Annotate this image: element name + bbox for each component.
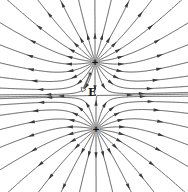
arrowhead-icon — [157, 120, 164, 123]
arrowhead-icon — [94, 99, 97, 105]
plus-sign-icon: + — [92, 124, 100, 134]
arrowhead-icon — [153, 79, 160, 82]
arrowhead-icon — [28, 133, 35, 137]
arrowhead-icon — [147, 87, 153, 90]
arrowhead-icon — [68, 119, 75, 122]
arrowhead-icon — [66, 56, 73, 59]
field-line — [0, 65, 92, 82]
arrowhead-icon — [155, 147, 161, 151]
arrowhead-icon — [154, 39, 160, 43]
field-label-e: E — [88, 86, 96, 99]
arrowhead-icon — [31, 147, 37, 151]
arrowhead-icon — [116, 69, 123, 72]
field-line — [0, 130, 92, 172]
field-line — [36, 0, 92, 59]
field-line — [98, 0, 154, 59]
arrowhead-icon — [157, 54, 164, 58]
arrowhead-icon — [140, 95, 147, 98]
field-line — [0, 44, 91, 64]
field-line — [98, 132, 132, 192]
field-line — [97, 0, 130, 59]
field-line — [99, 62, 188, 73]
field-line — [99, 110, 188, 127]
arrowhead-icon — [27, 68, 34, 71]
arrowhead-icon — [30, 40, 36, 44]
arrowhead-icon — [115, 48, 121, 53]
arrowhead-icon — [126, 183, 130, 190]
field-line — [59, 0, 93, 59]
arrowhead-icon — [114, 112, 121, 116]
field-line — [0, 119, 92, 130]
arrowhead-icon — [101, 151, 104, 158]
arrowhead-icon — [158, 133, 165, 137]
arrowhead-icon — [102, 102, 107, 108]
arrowhead-icon — [113, 75, 120, 79]
field-line — [100, 130, 188, 169]
field-line — [100, 119, 188, 128]
arrowhead-icon — [32, 109, 39, 112]
field-line — [37, 132, 93, 192]
arrowhead-icon — [67, 125, 74, 128]
field-line — [99, 132, 156, 192]
arrowhead-icon — [116, 138, 122, 143]
arrowhead-icon — [94, 152, 97, 158]
field-line — [0, 110, 93, 127]
arrowhead-icon — [38, 101, 44, 104]
arrowhead-icon — [118, 132, 125, 135]
arrowhead-icon — [125, 1, 129, 8]
field-line — [96, 66, 188, 94]
field-line — [60, 132, 94, 192]
arrowhead-icon — [61, 1, 65, 8]
arrowhead-icon — [85, 102, 90, 108]
arrowhead-icon — [71, 75, 78, 79]
arrowhead-icon — [88, 151, 91, 158]
arrowhead-icon — [117, 119, 124, 122]
field-line — [97, 133, 113, 192]
arrowhead-icon — [107, 148, 112, 154]
arrowhead-icon — [93, 32, 96, 38]
arrowhead-icon — [100, 34, 103, 41]
arrowhead-icon — [37, 88, 43, 91]
arrowhead-icon — [101, 83, 106, 89]
arrowhead-icon — [81, 148, 86, 154]
field-line — [99, 21, 188, 61]
arrowhead-icon — [87, 34, 90, 41]
plus-sign-icon: + — [91, 57, 99, 67]
arrowhead-icon — [67, 69, 74, 72]
arrowhead-icon — [28, 120, 35, 123]
field-line — [0, 97, 95, 125]
arrowhead-icon — [156, 68, 163, 71]
arrowhead-icon — [117, 56, 124, 59]
arrowhead-icon — [72, 112, 79, 116]
arrowhead-icon — [62, 183, 66, 190]
arrowhead-icon — [106, 37, 111, 43]
arrowhead-icon — [118, 63, 125, 66]
arrowhead-icon — [148, 100, 154, 103]
arrowhead-icon — [67, 132, 74, 135]
arrowhead-icon — [45, 93, 52, 96]
arrowhead-icon — [70, 138, 76, 143]
field-line — [98, 65, 188, 82]
arrowhead-icon — [69, 48, 75, 53]
arrowhead-icon — [80, 37, 85, 43]
arrowhead-icon — [27, 55, 34, 59]
field-line — [0, 21, 91, 61]
